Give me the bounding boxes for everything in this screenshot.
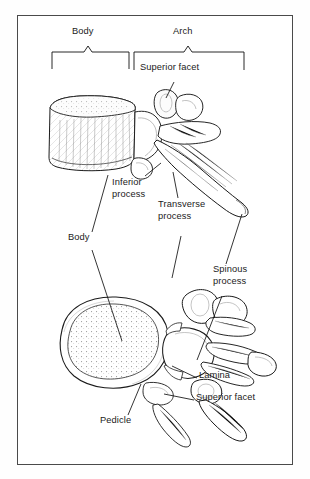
vertebra-figure: Body Arch Superior facet Inferior proces… — [0, 0, 310, 479]
label-superior-facet-top: Superior facet — [140, 62, 199, 74]
leader-transverse-process — [173, 172, 178, 198]
bracket-label-body: Body — [72, 26, 94, 38]
leader-pedicle — [128, 384, 141, 415]
leader-spinous-lateral — [226, 214, 242, 264]
label-superior-facet-lower: Superior facet — [196, 392, 255, 404]
leader-body-lateral — [92, 175, 108, 232]
lateral-view-drawing — [49, 90, 248, 217]
leader-transverse-superior — [172, 236, 181, 278]
label-body: Body — [68, 232, 90, 244]
label-spinous-process: Spinous process — [213, 264, 247, 287]
bracket-label-arch: Arch — [173, 26, 193, 38]
superior-view-drawing — [60, 290, 276, 447]
body-bracket — [52, 46, 129, 69]
label-lamina: Lamina — [199, 370, 230, 382]
label-transverse-process: Transverse process — [158, 199, 205, 222]
label-inferior-process: Inferior process — [112, 177, 145, 200]
label-pedicle: Pedicle — [100, 415, 131, 427]
